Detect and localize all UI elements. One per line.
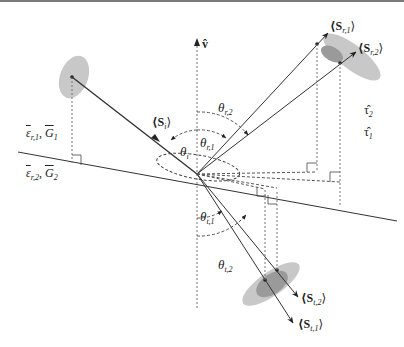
diagram-canvas	[0, 0, 404, 347]
incident-poynting-label: ⟨Si⟩	[152, 116, 171, 131]
transmitted-ray-2	[197, 174, 298, 297]
normal-arrow-icon	[194, 38, 200, 46]
theta-i-label: θi	[180, 145, 189, 161]
theta-t1-label: θt,1	[200, 210, 215, 226]
theta-r1-label: θr,1	[200, 136, 215, 152]
normal-vector-label: v̂	[202, 38, 208, 50]
theta-t2-label: θt,2	[218, 258, 233, 274]
medium-1-parameters: εr,1, G1	[26, 127, 58, 142]
tau-1-label: τ̂1	[364, 126, 373, 141]
tau-2-label: τ̂2	[364, 104, 373, 119]
medium-2-parameters: εr,2, G2	[26, 167, 58, 182]
incident-ray	[72, 77, 197, 174]
transmitted-1-label: ⟨St,1⟩	[298, 318, 323, 333]
incident-polarization-ellipse	[53, 52, 94, 103]
reflected-2-label: ⟨Sr,2⟩	[358, 42, 383, 57]
reflected-1-label: ⟨Sr,1⟩	[330, 20, 355, 35]
transmitted-2-label: ⟨St,2⟩	[301, 292, 326, 307]
reflected-ray-1	[197, 33, 328, 174]
theta-i-arc	[171, 130, 197, 140]
theta-r2-label: θr,2	[218, 101, 233, 117]
